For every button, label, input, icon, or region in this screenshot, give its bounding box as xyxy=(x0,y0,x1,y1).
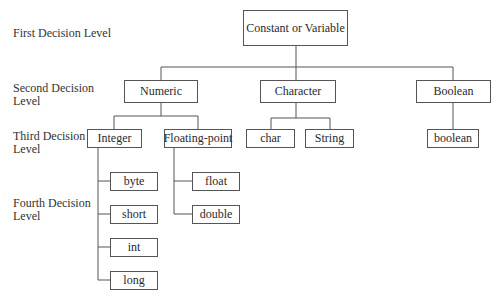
node-string: String xyxy=(305,129,354,148)
node-boolean: boolean xyxy=(427,129,479,148)
level-label-line: First Decision Level xyxy=(13,27,111,40)
node-character: Character xyxy=(260,80,336,103)
node-double: double xyxy=(192,205,240,224)
node-short: short xyxy=(110,205,158,224)
node-byte: byte xyxy=(110,172,158,191)
node-char: char xyxy=(246,129,295,148)
node-boolean-category: Boolean xyxy=(416,80,491,103)
level-label-fourth: Fourth Decision Level xyxy=(13,197,91,223)
level-label-first: First Decision Level xyxy=(13,27,111,40)
node-root: Constant or Variable xyxy=(243,10,348,46)
level-label-line: Level xyxy=(13,95,94,108)
node-float: float xyxy=(192,172,240,191)
node-floating-point: Floating-point xyxy=(164,129,232,148)
level-label-third: Third Decision Level xyxy=(13,130,85,156)
level-label-line: Level xyxy=(13,143,85,156)
node-integer: Integer xyxy=(87,129,142,148)
node-numeric: Numeric xyxy=(124,80,198,103)
level-label-second: Second Decision Level xyxy=(13,82,94,108)
node-int: int xyxy=(110,238,158,257)
node-long: long xyxy=(110,271,158,290)
level-label-line: Level xyxy=(13,210,91,223)
